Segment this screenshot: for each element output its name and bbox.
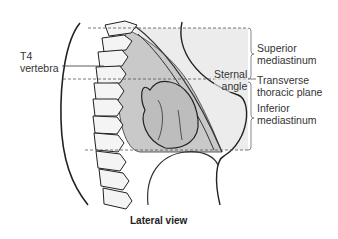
back-outline: [61, 23, 88, 205]
diaphragm: [148, 152, 218, 205]
label-inferior-mediastinum: Inferior mediastinum: [257, 102, 317, 126]
label-sternal-angle: Sternal angle: [214, 68, 247, 92]
inferior-brace: [248, 82, 254, 150]
label-superior-mediastinum: Superior mediastinum: [257, 42, 317, 66]
label-t4-vertebra: T4 vertebra: [20, 50, 59, 74]
label-transverse-thoracic-plane: Transverse thoracic plane: [257, 74, 322, 98]
superior-brace: [248, 28, 254, 79]
caption: Lateral view: [130, 215, 187, 226]
